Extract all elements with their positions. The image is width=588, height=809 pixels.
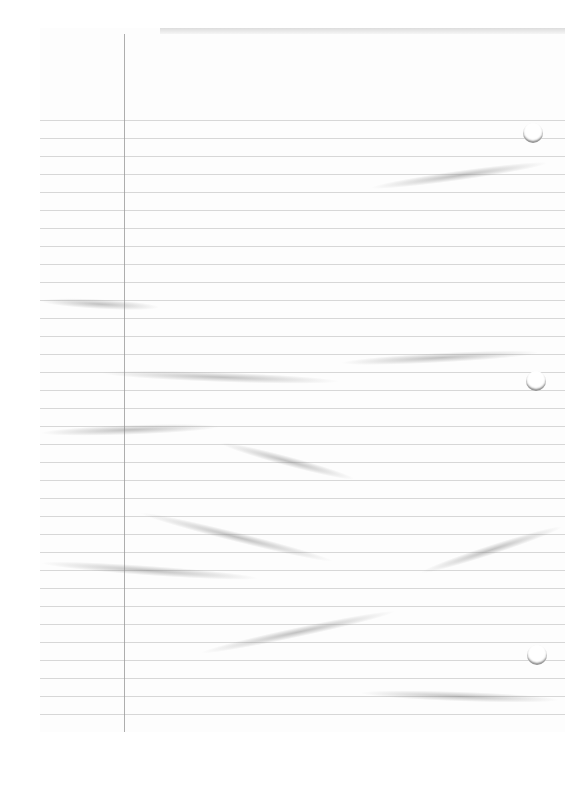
ruled-line <box>40 606 565 607</box>
crease-shadow <box>360 688 560 705</box>
crease-shadow <box>369 158 549 193</box>
crease-shadow <box>340 348 540 368</box>
punch-hole <box>523 123 543 143</box>
ruled-line <box>40 642 565 643</box>
ruled-line <box>40 282 565 283</box>
ruled-line <box>40 318 565 319</box>
ruled-line <box>40 624 565 625</box>
crease-shadow <box>40 422 220 438</box>
ruled-line <box>40 390 565 391</box>
ruled-line <box>40 498 565 499</box>
ruled-line <box>40 660 565 661</box>
ruled-line <box>40 120 565 121</box>
ruled-line <box>40 444 565 445</box>
punch-hole <box>527 645 547 665</box>
ruled-line <box>40 210 565 211</box>
ruled-line <box>40 192 565 193</box>
ruled-line <box>40 714 565 715</box>
ruled-line <box>40 516 565 517</box>
margin-line <box>124 34 125 732</box>
paper-top-edge <box>160 28 565 34</box>
ruled-line <box>40 588 565 589</box>
punch-hole <box>526 371 546 391</box>
ruled-line <box>40 246 565 247</box>
lined-paper-sheet <box>40 28 565 732</box>
ruled-line <box>40 408 565 409</box>
crease-shadow <box>40 296 160 312</box>
ruled-line <box>40 534 565 535</box>
ruled-line <box>40 228 565 229</box>
ruled-line <box>40 678 565 679</box>
ruled-line <box>40 264 565 265</box>
crease-shadow <box>100 368 340 386</box>
ruled-line <box>40 138 565 139</box>
ruled-line <box>40 336 565 337</box>
crease-shadow <box>199 607 397 658</box>
ruled-line <box>40 480 565 481</box>
ruled-line <box>40 156 565 157</box>
